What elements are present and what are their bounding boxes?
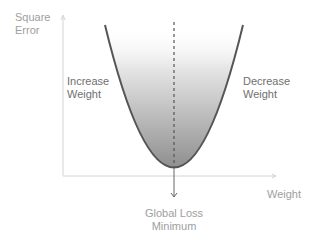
x-axis bbox=[63, 174, 276, 178]
decrease-weight-line1: Decrease bbox=[243, 75, 290, 88]
minimum-arrow-icon bbox=[171, 168, 177, 197]
decrease-weight-line2: Weight bbox=[243, 88, 290, 101]
y-axis-label-line1: Square bbox=[15, 11, 50, 24]
minimum-label-line1: Global Loss bbox=[124, 207, 224, 220]
y-axis-label: Square Error bbox=[15, 11, 50, 37]
increase-weight-label: Increase Weight bbox=[67, 75, 109, 101]
minimum-label-line2: Minimum bbox=[124, 220, 224, 233]
y-axis-label-line2: Error bbox=[15, 24, 50, 37]
x-axis-label: Weight bbox=[267, 188, 301, 201]
y-axis bbox=[61, 15, 65, 176]
increase-weight-line2: Weight bbox=[67, 88, 109, 101]
decrease-weight-label: Decrease Weight bbox=[243, 75, 290, 101]
global-loss-minimum-label: Global Loss Minimum bbox=[124, 207, 224, 233]
increase-weight-line1: Increase bbox=[67, 75, 109, 88]
